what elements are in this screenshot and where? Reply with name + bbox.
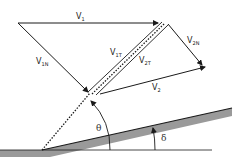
- label-v2n: V2N: [187, 36, 200, 46]
- label-v1: V1: [76, 12, 85, 22]
- label-delta: δ: [161, 133, 166, 143]
- label-theta: θ: [96, 123, 101, 133]
- wedge-line: [42, 108, 232, 150]
- label-v1n: V1N: [36, 57, 49, 67]
- label-v2: V2: [152, 83, 161, 93]
- velocity-diagram: V1 V1N V1T V2T V2N V2 θ δ: [0, 0, 248, 161]
- label-v1t: V1T: [110, 48, 123, 58]
- v1n-arrow: [18, 23, 88, 92]
- label-v2t: V2T: [139, 56, 152, 66]
